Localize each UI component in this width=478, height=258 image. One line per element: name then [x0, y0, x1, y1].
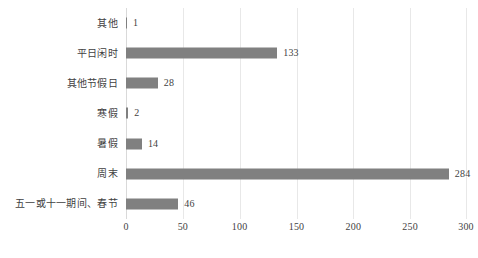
- bar: [126, 18, 127, 29]
- bar-value-label: 28: [164, 78, 174, 88]
- category-axis: 其他 平日闲时 其他节假日 寒假 暑假 周末 五一或十一期间、春节: [0, 8, 122, 219]
- category-row: 寒假: [0, 98, 122, 128]
- bar-row: 133: [126, 38, 467, 68]
- bar-row: 1: [126, 8, 467, 38]
- bar-chart: 1 133 28 2 14 284: [0, 0, 478, 258]
- bar: [126, 48, 277, 59]
- category-label: 其他: [97, 18, 122, 29]
- bar-value-label: 14: [148, 139, 158, 149]
- category-label: 五一或十一期间、春节: [15, 198, 122, 209]
- x-tick-label: 250: [402, 222, 418, 232]
- bar-value-label: 133: [283, 48, 299, 58]
- bar-value-label: 284: [455, 169, 471, 179]
- category-label: 周末: [97, 168, 122, 179]
- category-row: 五一或十一期间、春节: [0, 189, 122, 219]
- category-row: 暑假: [0, 129, 122, 159]
- category-label: 寒假: [97, 108, 122, 119]
- bar: [126, 108, 128, 119]
- category-label: 暑假: [97, 138, 122, 149]
- bar-row: 46: [126, 189, 467, 219]
- bar-row: 2: [126, 98, 467, 128]
- bar: [126, 168, 449, 179]
- bar-rows: 1 133 28 2 14 284: [126, 8, 467, 219]
- x-tick-label: 0: [123, 222, 128, 232]
- bar-value-label: 1: [133, 18, 138, 28]
- x-tick-label: 150: [289, 222, 305, 232]
- x-tick-label: 200: [346, 222, 362, 232]
- bar: [126, 198, 178, 209]
- x-tick-label: 100: [232, 222, 248, 232]
- category-row: 其他节假日: [0, 68, 122, 98]
- bar-row: 14: [126, 129, 467, 159]
- category-row: 平日闲时: [0, 38, 122, 68]
- x-tick-label: 50: [178, 222, 188, 232]
- bar-value-label: 2: [134, 108, 139, 118]
- bar-value-label: 46: [184, 199, 194, 209]
- category-label: 平日闲时: [77, 48, 122, 59]
- category-row: 其他: [0, 8, 122, 38]
- category-row: 周末: [0, 159, 122, 189]
- bar-row: 28: [126, 68, 467, 98]
- value-axis: 0 50 100 150 200 250 300: [126, 222, 467, 238]
- category-label: 其他节假日: [67, 78, 123, 89]
- bar: [126, 78, 158, 89]
- bar-row: 284: [126, 159, 467, 189]
- x-tick-label: 300: [458, 222, 474, 232]
- plot-area: 1 133 28 2 14 284: [126, 8, 467, 219]
- bar: [126, 138, 142, 149]
